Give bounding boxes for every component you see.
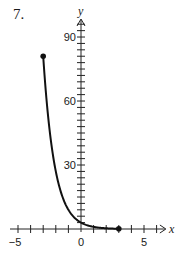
y-tick-label: 60 [64,95,76,107]
endpoint-dot [116,226,122,232]
x-tick-label: 0 [78,236,84,248]
y-tick-label: 90 [64,31,76,43]
chart: −505306090xy [0,0,179,255]
axes [10,19,166,233]
ticks [18,24,157,233]
y-axis-label: y [77,4,84,18]
tick-labels: −505306090xy [9,4,175,248]
y-tick-label: 30 [64,159,76,171]
endpoint-dot [40,53,46,59]
x-tick-label: 5 [141,236,147,248]
x-tick-label: −5 [9,236,22,248]
x-axis-label: x [168,222,175,236]
